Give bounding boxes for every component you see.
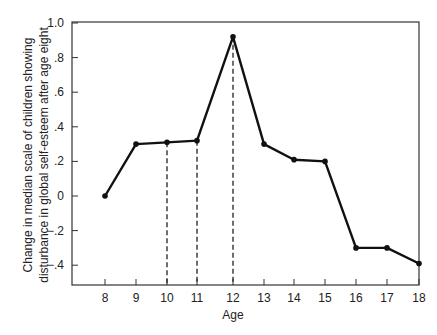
line-chart: Change in median scale of children showi… xyxy=(0,0,437,335)
data-line xyxy=(105,37,419,264)
dashed-drop-lines xyxy=(167,37,233,285)
x-tick-label: 10 xyxy=(160,291,174,305)
data-markers xyxy=(102,34,422,266)
plot-frame xyxy=(72,22,419,285)
x-tick-label: 11 xyxy=(191,291,204,305)
x-axis-title: Age xyxy=(222,308,244,322)
data-point xyxy=(164,140,170,146)
x-tick-label: 12 xyxy=(226,291,240,305)
y-tick-label: .4 xyxy=(54,120,64,134)
y-axis-title: Change in median scale of children showi… xyxy=(21,27,51,283)
x-tick-label: 9 xyxy=(133,291,140,305)
x-tick-label: 18 xyxy=(412,291,426,305)
x-tick-label: 15 xyxy=(318,291,332,305)
x-tick-label: 16 xyxy=(349,291,363,305)
x-tick-label: 17 xyxy=(380,291,394,305)
y-tick-label: .2 xyxy=(54,154,64,168)
y-tick-label: 0 xyxy=(57,189,64,203)
y-axis-title-line-1: Change in median scale of children showi… xyxy=(21,38,35,273)
x-tick-label: 14 xyxy=(287,291,301,305)
y-axis: 1.0.8.6.4.20−.2−.4 xyxy=(47,16,78,272)
y-tick-label: 1.0 xyxy=(47,16,64,30)
data-point xyxy=(353,245,359,251)
data-point xyxy=(194,138,200,144)
y-axis-title-line-2: disturbance in global self-esteem after … xyxy=(37,27,51,283)
data-point xyxy=(230,34,236,40)
y-tick-label: .8 xyxy=(54,51,64,65)
data-point xyxy=(133,141,139,147)
x-tick-label: 13 xyxy=(257,291,271,305)
y-tick-label: .6 xyxy=(54,85,64,99)
data-point xyxy=(291,157,297,163)
data-point xyxy=(384,245,390,251)
x-axis: 89101112131415161718 xyxy=(102,279,426,305)
data-point xyxy=(416,261,422,267)
data-point xyxy=(322,159,328,165)
y-tick-label: −.2 xyxy=(47,224,64,238)
x-tick-label: 8 xyxy=(102,291,109,305)
data-point xyxy=(102,193,108,199)
data-point xyxy=(261,141,267,147)
y-tick-label: −.4 xyxy=(47,258,64,272)
